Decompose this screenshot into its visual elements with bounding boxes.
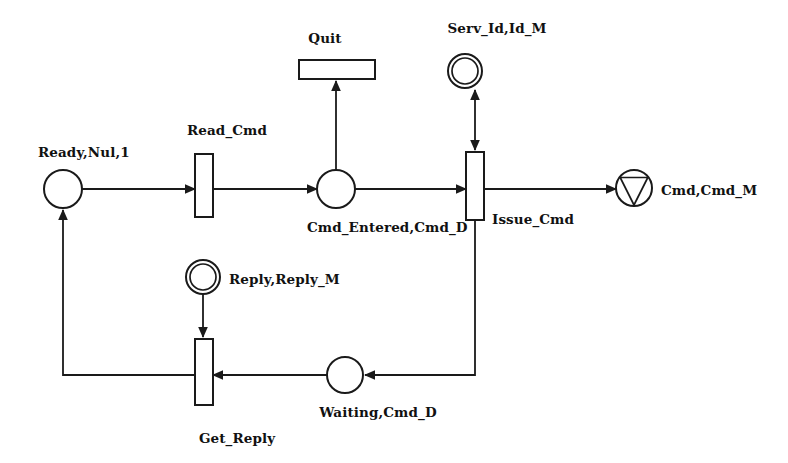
transition-get-reply[interactable]: Get_Reply	[195, 339, 276, 447]
arc-cmd-entered-to-issue-cmd	[355, 184, 468, 194]
arc-get-reply-to-ready	[58, 209, 195, 375]
arc-waiting-to-get-reply	[211, 370, 327, 380]
transition-get-reply-label: Get_Reply	[199, 430, 276, 447]
place-cmd-entered-label: Cmd_Entered,Cmd_D	[307, 219, 468, 236]
petri-net-canvas: Ready,Nul,1 Cmd_Entered,Cmd_D Serv_Id,Id…	[0, 0, 788, 463]
arc-issue-cmd-to-cmd-out	[484, 184, 618, 194]
transition-issue-cmd[interactable]: Issue_Cmd	[466, 152, 574, 228]
place-layer: Ready,Nul,1 Cmd_Entered,Cmd_D Serv_Id,Id…	[38, 20, 757, 421]
transition-quit[interactable]: Quit	[299, 30, 375, 79]
place-cmd-out[interactable]: Cmd,Cmd_M	[616, 170, 757, 206]
place-ready[interactable]: Ready,Nul,1	[38, 144, 130, 208]
place-waiting-label: Waiting,Cmd_D	[318, 404, 437, 421]
place-reply-label: Reply,Reply_M	[229, 271, 340, 288]
place-serv-id-label: Serv_Id,Id_M	[447, 20, 546, 37]
petri-net-diagram: Ready,Nul,1 Cmd_Entered,Cmd_D Serv_Id,Id…	[0, 0, 788, 463]
arc-cmd-entered-to-quit	[331, 80, 341, 170]
place-ready-label: Ready,Nul,1	[38, 144, 130, 160]
arc-read-cmd-to-cmd-entered	[213, 184, 319, 194]
transition-read-cmd-label: Read_Cmd	[187, 122, 267, 139]
transition-layer: Read_Cmd Quit Issue_Cmd Get_Reply	[187, 30, 575, 447]
arc-ready-to-read-cmd	[82, 184, 197, 194]
place-serv-id[interactable]: Serv_Id,Id_M	[447, 20, 546, 88]
transition-read-cmd[interactable]: Read_Cmd	[187, 122, 267, 217]
place-cmd-entered[interactable]: Cmd_Entered,Cmd_D	[307, 170, 468, 236]
transition-quit-label: Quit	[308, 30, 342, 46]
place-reply[interactable]: Reply,Reply_M	[186, 260, 340, 294]
arc-issue-cmd-serv-id-bidirectional	[470, 89, 480, 151]
arc-issue-cmd-to-waiting	[364, 220, 475, 380]
place-cmd-out-label: Cmd,Cmd_M	[661, 182, 757, 199]
arc-reply-to-get-reply	[198, 294, 208, 338]
place-waiting[interactable]: Waiting,Cmd_D	[318, 357, 437, 421]
transition-issue-cmd-label: Issue_Cmd	[492, 211, 574, 228]
